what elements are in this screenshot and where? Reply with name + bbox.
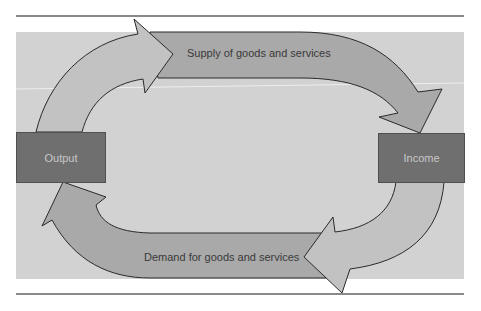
output-node-label: Output: [44, 152, 77, 164]
bottom-rule: [16, 293, 464, 295]
demand-flow-arrow: [42, 182, 444, 293]
output-node: Output: [16, 132, 106, 183]
supply-flow-label: Supply of goods and services: [187, 47, 331, 59]
demand-flow-label: Demand for goods and services: [144, 251, 299, 263]
income-node: Income: [378, 133, 465, 183]
supply-flow-arrow: [36, 19, 442, 133]
income-node-label: Income: [403, 152, 439, 164]
